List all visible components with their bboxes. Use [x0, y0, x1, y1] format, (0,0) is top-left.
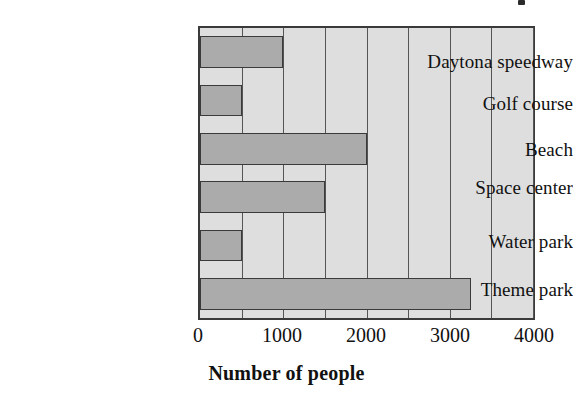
gridline-1000	[283, 28, 284, 318]
category-label-daytona-speedway: Daytona speedway	[383, 52, 573, 71]
scan-artifact-mark	[518, 0, 525, 5]
category-label-space-center: Space center	[383, 178, 573, 197]
category-label-beach: Beach	[383, 140, 573, 159]
bar-daytona-speedway	[200, 36, 283, 68]
category-label-water-park: Water park	[383, 232, 573, 251]
bar-space-center	[200, 181, 325, 213]
gridline-2500	[408, 28, 409, 318]
gridline-1500	[325, 28, 326, 318]
category-label-theme-park: Theme park	[383, 280, 573, 299]
x-tick-label-2000: 2000	[346, 325, 386, 345]
bar-golf-course	[200, 85, 242, 117]
x-tick-label-0: 0	[193, 325, 203, 345]
bar-chart-figure: Daytona speedway Golf course Beach Space…	[0, 0, 573, 399]
x-tick-label-4000: 4000	[514, 325, 554, 345]
bar-water-park	[200, 230, 242, 262]
gridline-2000	[367, 28, 368, 318]
gridline-500	[242, 28, 243, 318]
bar-beach	[200, 133, 367, 165]
category-label-golf-course: Golf course	[383, 94, 573, 113]
x-tick-label-1000: 1000	[262, 325, 302, 345]
x-tick-label-3000: 3000	[430, 325, 470, 345]
x-axis-title: Number of people	[0, 362, 573, 385]
